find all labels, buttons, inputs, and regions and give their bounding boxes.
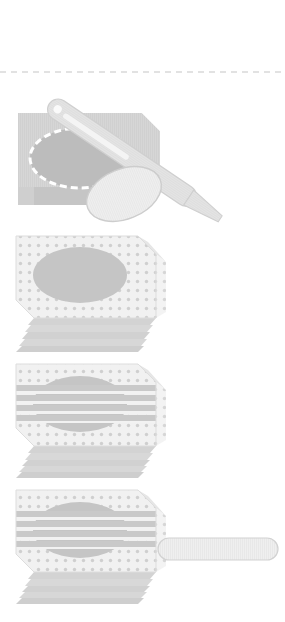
section-top-face	[8, 364, 173, 446]
section-top-face	[16, 236, 156, 318]
slice-bands	[8, 511, 173, 549]
section-top-face	[8, 490, 173, 572]
sectioning-diagram	[0, 0, 285, 622]
stack-layers	[16, 572, 156, 604]
tool-blade-neck	[184, 190, 226, 226]
figure-canvas	[0, 0, 285, 622]
section-specimen-ellipse	[33, 247, 127, 303]
panel-1-block-with-blade	[18, 95, 226, 232]
slice-bands	[8, 385, 173, 423]
panel-4-section-stack-mounted	[8, 490, 278, 604]
panel-2-section-stack-intact	[16, 236, 166, 352]
stack-layers	[16, 318, 156, 352]
panel-3-section-stack-sliced	[8, 364, 173, 478]
mounting-slide-bar	[158, 538, 278, 560]
stack-layers	[16, 446, 156, 478]
